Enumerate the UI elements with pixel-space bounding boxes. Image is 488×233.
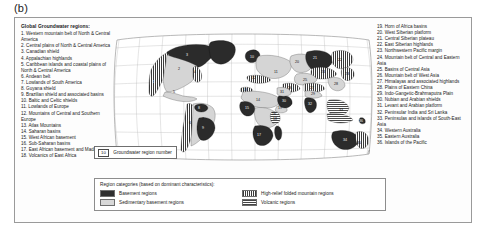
- svg-text:23: 23: [345, 72, 349, 76]
- right-region-list: 19. Horn of Africa basins 20. West Siber…: [377, 24, 469, 146]
- map-number-key: 10 Groundwater region number: [94, 146, 177, 159]
- left-region-list: Global Groundwater regions: 1. Western m…: [21, 24, 113, 159]
- legend-entry-volcanic: Volcanic regions: [242, 199, 380, 206]
- svg-text:11: 11: [274, 70, 278, 74]
- svg-text:34: 34: [343, 138, 347, 142]
- volcanic-swatch-icon: [242, 199, 257, 206]
- svg-text:16: 16: [272, 112, 276, 116]
- svg-text:33: 33: [339, 108, 343, 112]
- figure-frame: Global Groundwater regions: 1. Western m…: [14, 17, 472, 223]
- right-list-items: 19. Horn of Africa basins 20. West Siber…: [377, 24, 469, 146]
- list-item: 24. Mountain belt of Central and Eastern…: [377, 55, 469, 67]
- sedimentary-swatch-icon: [100, 199, 115, 206]
- svg-text:5: 5: [173, 90, 175, 94]
- panel-label: (b): [14, 2, 28, 14]
- svg-text:22: 22: [338, 58, 342, 62]
- list-item: 12. Mountains of Central and Southern Eu…: [21, 111, 113, 123]
- svg-text:27: 27: [310, 86, 314, 90]
- legend-entry-sedimentary: Sedimentary basement regions: [100, 199, 238, 206]
- list-item: 5. Caribbean islands and coastal plains …: [21, 62, 113, 74]
- svg-text:3: 3: [186, 53, 188, 57]
- svg-text:2: 2: [178, 67, 180, 71]
- svg-text:25: 25: [303, 78, 307, 82]
- svg-text:7: 7: [202, 117, 204, 121]
- svg-text:18: 18: [273, 117, 277, 121]
- region-number-key-label: Groundwater region number: [113, 150, 172, 155]
- svg-text:32: 32: [308, 102, 312, 106]
- svg-text:29: 29: [311, 92, 315, 96]
- region-number-chip: 10: [98, 149, 110, 157]
- svg-text:9: 9: [202, 126, 204, 130]
- svg-text:12: 12: [252, 76, 256, 80]
- svg-text:26: 26: [288, 86, 292, 90]
- list-item: 1. Western mountain belt of North & Cent…: [21, 31, 113, 43]
- left-list-heading: Global Groundwater regions:: [21, 24, 113, 31]
- svg-text:1: 1: [153, 80, 155, 84]
- region-guyana-shield: [195, 104, 208, 112]
- folded-mountain-swatch-icon: [242, 190, 257, 197]
- left-list-items: 1. Western mountain belt of North & Cent…: [21, 31, 113, 159]
- map-legend: Region categories (based on dominant cha…: [94, 178, 386, 211]
- legend-label: Volcanic regions: [261, 200, 295, 205]
- svg-text:14: 14: [256, 98, 260, 102]
- svg-text:36: 36: [359, 119, 363, 123]
- svg-text:6: 6: [189, 121, 191, 125]
- legend-entry-basement: Basement regions: [100, 190, 238, 197]
- legend-title: Region categories (based on dominant cha…: [100, 182, 380, 187]
- svg-text:13: 13: [243, 88, 247, 92]
- legend-label: Sedimentary basement regions: [119, 200, 184, 205]
- legend-label: High-relief folded mountain regions: [261, 191, 334, 196]
- list-item: 36. Islands of the Pacific: [377, 140, 469, 146]
- svg-text:24: 24: [321, 70, 325, 74]
- legend-entries: Basement regions High-relief folded moun…: [100, 190, 380, 206]
- svg-text:35: 35: [357, 141, 361, 145]
- svg-text:21: 21: [313, 56, 317, 60]
- svg-text:31: 31: [280, 90, 284, 94]
- svg-text:10: 10: [250, 55, 254, 59]
- svg-text:15: 15: [245, 106, 249, 110]
- basement-swatch-icon: [100, 190, 115, 197]
- legend-label: Basement regions: [119, 191, 157, 196]
- list-item: 33. Peninsulas and islands of South-East…: [377, 116, 469, 128]
- legend-entry-folded-mountain: High-relief folded mountain regions: [242, 190, 380, 197]
- svg-text:17: 17: [257, 133, 261, 137]
- figure-panel-b: (b) Global Groundwater regions: 1. Weste…: [0, 0, 488, 233]
- svg-text:28: 28: [334, 82, 338, 86]
- svg-text:4: 4: [194, 70, 196, 74]
- svg-text:19: 19: [278, 106, 282, 110]
- svg-text:30: 30: [282, 99, 286, 103]
- svg-text:8: 8: [198, 106, 200, 110]
- svg-text:20: 20: [295, 60, 299, 64]
